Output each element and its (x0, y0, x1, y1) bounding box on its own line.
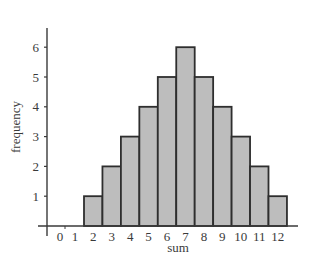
x-tick-label-9: 9 (219, 229, 226, 244)
bar-8 (195, 77, 213, 226)
y-tick-label-3: 3 (33, 129, 40, 144)
x-tick-label-4: 4 (127, 229, 134, 244)
bar-11 (250, 166, 268, 226)
y-tick-label-4: 4 (33, 99, 40, 114)
y-axis-title: frequency (8, 101, 23, 153)
bar-10 (232, 137, 250, 226)
x-tick-label-1: 1 (72, 229, 79, 244)
bar-9 (213, 107, 231, 226)
x-tick-label-11: 11 (253, 229, 266, 244)
y-tick-label-2: 2 (33, 159, 40, 174)
x-axis-title: sum (167, 240, 189, 255)
bars-group (84, 47, 287, 226)
bar-4 (121, 137, 139, 226)
y-ticks-group: 123456 (33, 40, 48, 204)
bar-6 (158, 77, 176, 226)
x-tick-label-10: 10 (234, 229, 247, 244)
x-tick-label-2: 2 (90, 229, 97, 244)
x-tick-label-5: 5 (145, 229, 152, 244)
y-tick-label-1: 1 (33, 189, 40, 204)
histogram-chart: 123456 0123456789101112 sum frequency (0, 0, 313, 268)
bar-3 (102, 166, 120, 226)
y-tick-label-5: 5 (33, 70, 40, 85)
x-tick-label-0: 0 (57, 229, 64, 244)
bar-7 (176, 47, 194, 226)
x-tick-label-3: 3 (108, 229, 115, 244)
bar-12 (269, 196, 287, 226)
bar-2 (84, 196, 102, 226)
x-tick-label-12: 12 (271, 229, 284, 244)
x-tick-label-8: 8 (201, 229, 208, 244)
y-tick-label-6: 6 (33, 40, 40, 55)
bar-5 (139, 107, 157, 226)
